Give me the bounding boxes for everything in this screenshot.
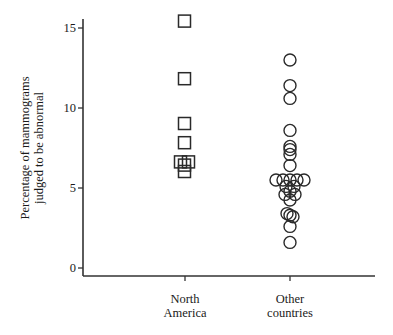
square-marker (179, 15, 191, 27)
y-axis-label-line-1: Percentage of mammograms (18, 76, 32, 219)
circle-marker (284, 160, 296, 172)
data-markers (175, 15, 311, 248)
x-category-label-north-america: North America (163, 292, 206, 320)
circle-marker (284, 124, 296, 136)
circle-marker (284, 92, 296, 104)
circle-marker (284, 80, 296, 92)
x-category-line: countries (267, 306, 313, 320)
square-marker (179, 73, 191, 85)
axes (78, 19, 375, 281)
square-marker (179, 137, 191, 149)
y-tick-label: 15 (64, 21, 77, 36)
x-category-line: America (163, 306, 206, 320)
scatter-chart (0, 0, 393, 335)
x-category-label-other-countries: Other countries (267, 292, 313, 320)
y-tick-label: 10 (64, 101, 77, 116)
y-axis-label-line-2: judged to be abnormal (32, 76, 46, 219)
y-tick-label: 0 (70, 261, 76, 276)
circle-marker (284, 54, 296, 66)
square-marker (179, 118, 191, 130)
x-category-line: North (163, 292, 206, 306)
x-category-line: Other (267, 292, 313, 306)
y-tick-label: 5 (70, 181, 76, 196)
y-axis-label: Percentage of mammograms judged to be ab… (18, 76, 46, 219)
circle-marker (284, 236, 296, 248)
